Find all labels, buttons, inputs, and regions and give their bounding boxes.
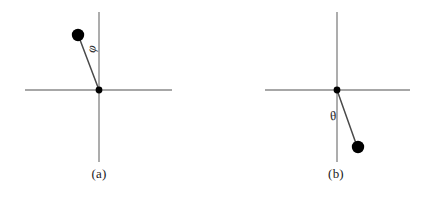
panel-b-pendulum-bob <box>352 141 364 153</box>
panel-a-pivot-point <box>96 87 103 94</box>
pendulum-figure: φ θ (a) (b) <box>0 0 430 198</box>
panel-b-group <box>265 12 410 162</box>
panel-a-pendulum-bob <box>72 29 84 41</box>
panel-a-caption: (a) <box>0 166 198 182</box>
panel-b-pendulum-rod <box>337 90 356 144</box>
panel-b-caption: (b) <box>236 166 430 182</box>
panel-b-pivot-point <box>334 87 341 94</box>
panel-a-group <box>25 12 172 162</box>
